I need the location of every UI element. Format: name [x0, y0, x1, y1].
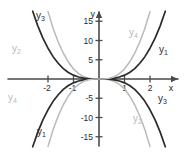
y-tick-label-1: -10 — [81, 113, 94, 123]
curve-label-y3-upper-left: y3 — [36, 11, 45, 22]
y-tick-label-4: 10 — [84, 36, 94, 46]
curve-label-y1-upper-right: y1 — [159, 45, 168, 56]
y-tick-label-2: -5 — [85, 93, 93, 103]
curve-label-subscript: 2 — [138, 118, 142, 125]
y-axis-label: y — [91, 9, 96, 19]
x-tick-label-0: -2 — [43, 83, 51, 93]
x-axis-arrowhead — [171, 76, 178, 82]
x-axis-label: x — [169, 83, 174, 93]
curve-label-y1-lower-left: y1 — [37, 127, 46, 138]
curve-label-subscript: 4 — [134, 32, 138, 39]
curve-label-subscript: 1 — [42, 131, 46, 138]
plot-canvas: -2-112-15-10-551015 x y — [0, 0, 190, 153]
y-axis-arrowhead — [96, 11, 102, 18]
curve-label-y2-lower-right: y2 — [133, 114, 142, 125]
x-tick-label-3: 2 — [148, 83, 153, 93]
y-tick-label-0: -15 — [81, 132, 94, 142]
y-tick-label-3: 5 — [88, 55, 93, 65]
curve-label-subscript: 3 — [163, 98, 167, 105]
curve-label-y3-lower-right: y3 — [158, 94, 167, 105]
curve-label-subscript: 1 — [164, 49, 168, 56]
curve-label-y2-upper-left: y2 — [12, 44, 21, 55]
curve-label-subscript: 4 — [13, 97, 17, 104]
function-graph-figure: -2-112-15-10-551015 x y y3y2y4y1y4y1y2y3 — [0, 0, 190, 153]
curve-label-subscript: 2 — [17, 48, 21, 55]
curve-label-subscript: 3 — [41, 15, 45, 22]
curve-label-y4-upper-right: y4 — [129, 28, 138, 39]
curve-label-y4-lower-left: y4 — [8, 93, 17, 104]
